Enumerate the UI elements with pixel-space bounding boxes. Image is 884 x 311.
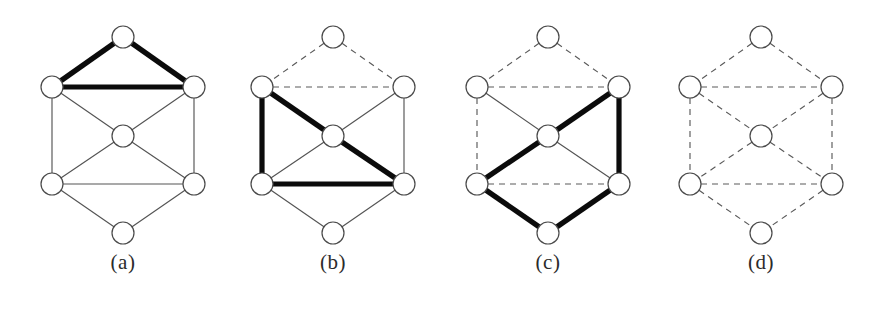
panel-d-caption: (d) xyxy=(638,250,884,275)
edge-lower_right-bottom-thin xyxy=(123,184,194,233)
node-top xyxy=(112,26,134,48)
node-upper-left xyxy=(679,76,701,98)
node-bottom xyxy=(322,222,344,244)
node-lower-left xyxy=(679,173,701,195)
edge-upper_left-center-thin xyxy=(477,87,548,136)
edge-upper_right-center-bold xyxy=(548,87,619,136)
node-lower-left xyxy=(251,173,273,195)
node-lower-right xyxy=(393,173,415,195)
node-upper-right xyxy=(183,76,205,98)
node-lower-right xyxy=(183,173,205,195)
node-lower-left xyxy=(41,173,63,195)
node-bottom xyxy=(750,222,772,244)
edge-center-lower_left-thin xyxy=(52,136,123,184)
edge-upper_right-center-thin xyxy=(123,87,194,136)
edge-top-upper_right-dashed xyxy=(333,37,404,87)
edge-top-upper_left-dashed xyxy=(690,37,761,87)
edge-upper_left-center-bold xyxy=(262,87,333,136)
node-upper-left xyxy=(466,76,488,98)
edge-upper_left-center-dashed xyxy=(690,87,761,136)
panel-b-graph xyxy=(210,0,456,262)
node-center xyxy=(112,125,134,147)
node-center xyxy=(750,125,772,147)
edge-upper_left-center-thin xyxy=(52,87,123,136)
edge-top-upper_right-bold xyxy=(123,37,194,87)
edge-center-lower_left-thin xyxy=(262,136,333,184)
node-top xyxy=(322,26,344,48)
panel-c-caption: (c) xyxy=(425,250,671,275)
node-upper-left xyxy=(251,76,273,98)
node-lower-right xyxy=(821,173,843,195)
edge-lower_left-bottom-bold xyxy=(477,184,548,233)
node-top xyxy=(537,26,559,48)
edge-lower_right-bottom-dashed xyxy=(761,184,832,233)
panel-b-caption: (b) xyxy=(210,250,456,275)
edge-top-upper_left-dashed xyxy=(262,37,333,87)
edge-lower_right-bottom-thin xyxy=(333,184,404,233)
edge-top-upper_left-bold xyxy=(52,37,123,87)
edge-center-lower_right-thin xyxy=(123,136,194,184)
edge-upper_right-center-dashed xyxy=(761,87,832,136)
edge-upper_right-center-thin xyxy=(333,87,404,136)
panel-c: (c) xyxy=(425,0,671,311)
edge-center-lower_right-bold xyxy=(333,136,404,184)
edge-top-upper_right-dashed xyxy=(761,37,832,87)
edge-lower_left-bottom-dashed xyxy=(690,184,761,233)
node-bottom xyxy=(537,222,559,244)
node-bottom xyxy=(112,222,134,244)
edge-top-upper_left-dashed xyxy=(477,37,548,87)
edge-lower_left-bottom-thin xyxy=(262,184,333,233)
edge-lower_right-bottom-bold xyxy=(548,184,619,233)
graph-figure: (a)(b)(c)(d) xyxy=(0,0,884,311)
node-center xyxy=(537,125,559,147)
node-upper-right xyxy=(393,76,415,98)
node-lower-left xyxy=(466,173,488,195)
edge-top-upper_right-dashed xyxy=(548,37,619,87)
panel-b: (b) xyxy=(210,0,456,311)
panel-d-graph xyxy=(638,0,884,262)
node-upper-right xyxy=(608,76,630,98)
node-lower-right xyxy=(608,173,630,195)
node-upper-right xyxy=(821,76,843,98)
edge-center-lower_right-dashed xyxy=(761,136,832,184)
edge-center-lower_left-dashed xyxy=(690,136,761,184)
edge-lower_left-bottom-thin xyxy=(52,184,123,233)
edge-center-lower_right-thin xyxy=(548,136,619,184)
edge-center-lower_left-bold xyxy=(477,136,548,184)
panel-d: (d) xyxy=(638,0,884,311)
node-top xyxy=(750,26,772,48)
panel-c-graph xyxy=(425,0,671,262)
node-center xyxy=(322,125,344,147)
node-upper-left xyxy=(41,76,63,98)
